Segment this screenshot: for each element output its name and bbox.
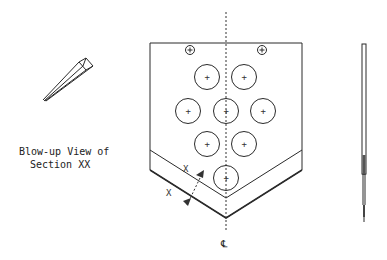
blowup-view xyxy=(43,58,93,101)
svg-text:+: + xyxy=(242,72,248,82)
section-arrow-lower xyxy=(183,198,191,206)
mounting-hole xyxy=(186,46,195,55)
side-view-body xyxy=(362,44,366,174)
plate-front-view: + + + + + + + + X X ℄ xyxy=(150,12,302,249)
large-hole: + xyxy=(251,99,276,124)
large-hole: + xyxy=(195,132,220,157)
blowup-caption-line2: Section XX xyxy=(30,159,90,170)
svg-text:+: + xyxy=(186,106,192,116)
svg-text:+: + xyxy=(261,106,267,116)
large-hole: + xyxy=(214,99,239,124)
section-arrow-upper xyxy=(196,170,204,178)
large-hole: + xyxy=(195,65,220,90)
side-view-tip xyxy=(363,205,365,217)
mounting-hole xyxy=(258,46,267,55)
side-view-bevel xyxy=(363,155,366,175)
svg-text:+: + xyxy=(205,139,211,149)
svg-text:+: + xyxy=(242,139,248,149)
large-hole: + xyxy=(232,132,257,157)
centerline-symbol: ℄ xyxy=(220,238,228,249)
large-hole: + xyxy=(232,65,257,90)
section-marker-upper: X xyxy=(183,164,189,174)
section-marker-lower: X xyxy=(166,188,172,198)
large-hole: + xyxy=(176,99,201,124)
svg-text:+: + xyxy=(224,173,230,183)
svg-text:+: + xyxy=(205,72,211,82)
technical-drawing: Blow-up View of Section XX + + + + + + +… xyxy=(0,0,387,260)
svg-text:+: + xyxy=(224,106,230,116)
plate-side-view xyxy=(362,44,366,222)
blowup-caption-line1: Blow-up View of xyxy=(19,146,109,157)
